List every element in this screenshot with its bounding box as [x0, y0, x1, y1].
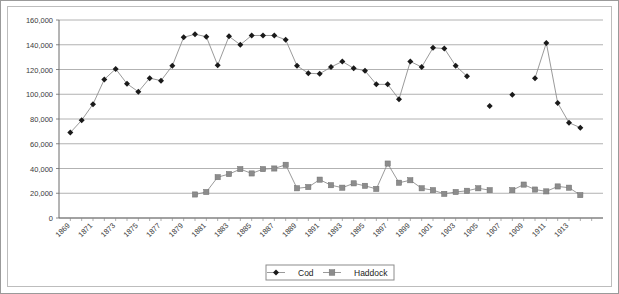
data-point-marker [510, 188, 515, 193]
x-axis-tick-label: 1899 [394, 221, 412, 239]
x-axis-tick-label: 1913 [552, 221, 570, 239]
x-axis-tick-label: 1897 [371, 221, 389, 239]
data-point-marker [272, 166, 277, 171]
data-point-marker [521, 182, 526, 187]
x-axis-tick-label: 1893 [326, 221, 344, 239]
chart-legend: CodHaddock [266, 265, 394, 280]
x-axis-tick-label: 1887 [258, 221, 276, 239]
legend-label-haddock: Haddock [354, 268, 388, 278]
data-point-marker [317, 177, 322, 182]
data-point-marker [544, 189, 549, 194]
x-axis-tick-label: 1877 [144, 221, 162, 239]
x-axis-tick-label: 1907 [484, 221, 502, 239]
chart-frame: 020,00040,00060,00080,000100,000120,0001… [0, 0, 619, 294]
x-axis-tick-label: 1881 [190, 221, 208, 239]
data-point-marker [385, 161, 390, 166]
data-point-marker [408, 178, 413, 183]
data-point-marker [226, 171, 231, 176]
data-point-marker [238, 167, 243, 172]
data-point-marker [442, 191, 447, 196]
data-point-marker [351, 181, 356, 186]
x-axis-tick-label: 1905 [462, 221, 480, 239]
x-axis-tick-label: 1891 [303, 221, 321, 239]
legend-label-cod: Cod [298, 268, 314, 278]
data-point-marker [453, 189, 458, 194]
data-point-marker [532, 187, 537, 192]
y-axis-tick-label: 20,000 [30, 189, 53, 198]
x-axis-tick-label: 1871 [76, 221, 94, 239]
y-axis-tick-label: 0 [49, 214, 53, 223]
line-chart: 020,00040,00060,00080,000100,000120,0001… [8, 7, 611, 286]
y-axis-tick-label: 120,000 [26, 66, 53, 75]
y-axis-tick-label: 80,000 [30, 115, 53, 124]
data-point-marker [340, 185, 345, 190]
x-axis-tick-label: 1909 [507, 221, 525, 239]
x-axis-tick-label: 1873 [99, 221, 117, 239]
x-axis-tick-label: 1901 [416, 221, 434, 239]
y-axis-tick-label: 100,000 [26, 90, 53, 99]
x-axis-tick-label: 1879 [167, 221, 185, 239]
legend-marker-haddock [329, 270, 335, 276]
y-axis-tick-label: 160,000 [26, 16, 53, 25]
chart-plot-container: 020,00040,00060,00080,000100,000120,0001… [7, 6, 612, 287]
x-axis-tick-label: 1911 [530, 221, 548, 239]
data-point-marker [306, 184, 311, 189]
data-point-marker [566, 185, 571, 190]
data-point-marker [396, 180, 401, 185]
data-point-marker [204, 189, 209, 194]
x-axis-tick-label: 1889 [280, 221, 298, 239]
data-point-marker [192, 192, 197, 197]
data-point-marker [419, 186, 424, 191]
data-point-marker [260, 167, 265, 172]
x-axis-tick-label: 1883 [212, 221, 230, 239]
data-point-marker [464, 188, 469, 193]
data-point-marker [249, 171, 254, 176]
x-axis-tick-label: 1885 [235, 221, 253, 239]
x-axis-tick-label: 1869 [54, 221, 72, 239]
data-point-marker [374, 186, 379, 191]
data-point-marker [328, 183, 333, 188]
data-point-marker [362, 183, 367, 188]
data-point-marker [294, 186, 299, 191]
x-axis-tick-label: 1903 [439, 221, 457, 239]
data-point-marker [283, 162, 288, 167]
y-axis-tick-label: 60,000 [30, 140, 53, 149]
x-axis-tick-label: 1895 [348, 221, 366, 239]
data-point-marker [578, 193, 583, 198]
data-point-marker [476, 186, 481, 191]
y-axis-tick-label: 40,000 [30, 165, 53, 174]
data-point-marker [555, 184, 560, 189]
data-point-marker [215, 175, 220, 180]
y-axis-tick-label: 140,000 [26, 41, 53, 50]
data-point-marker [487, 188, 492, 193]
data-point-marker [430, 188, 435, 193]
x-axis-tick-label: 1875 [122, 221, 140, 239]
